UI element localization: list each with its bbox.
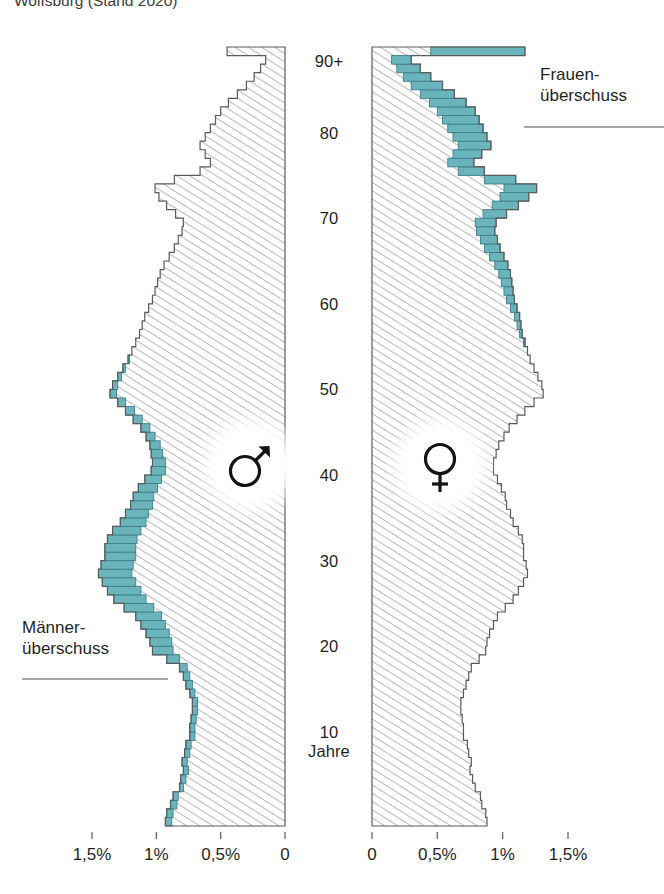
- surplus-bar-segment: [477, 227, 495, 236]
- surplus-bar-segment: [113, 526, 141, 535]
- surplus-bar-segment: [186, 740, 191, 749]
- axis-ticks-group: [92, 832, 568, 839]
- surplus-bar-segment: [183, 672, 189, 681]
- surplus-bar-segment: [183, 766, 188, 775]
- surplus-bar-segment: [507, 295, 515, 304]
- surplus-bar-segment: [133, 415, 142, 424]
- surplus-bar-segment: [182, 758, 187, 767]
- surplus-bar-segment: [192, 706, 197, 715]
- age-axis-label-90plus: 90+: [290, 52, 368, 71]
- frauen-annotation-line2: überschuss: [540, 85, 664, 106]
- age-axis-label-70: 70: [290, 209, 368, 228]
- age-axis-label-40: 40: [290, 466, 368, 485]
- surplus-bar-segment: [392, 56, 412, 65]
- surplus-bar-segment: [448, 158, 474, 167]
- age-axis-label-30: 30: [290, 552, 368, 571]
- surplus-bar-segment: [500, 193, 529, 202]
- male-symbol-halo: [194, 409, 306, 521]
- surplus-bar-segment: [145, 475, 162, 484]
- surplus-bar-segment: [141, 424, 150, 433]
- surplus-bar-segment: [443, 115, 480, 124]
- surplus-bar-segment: [150, 441, 160, 450]
- surplus-bar-segment: [397, 64, 421, 73]
- surplus-bar-segment: [499, 270, 511, 279]
- x-tick-label-left-3: 0: [250, 845, 320, 865]
- surplus-bar-segment: [411, 81, 442, 90]
- surplus-bar-segment: [453, 133, 487, 142]
- surplus-bar-segment: [191, 715, 196, 724]
- age-axis-unit-label: Jahre: [290, 742, 368, 761]
- age-axis-label-50: 50: [290, 380, 368, 399]
- x-tick-label-left-1: 1%: [121, 845, 191, 865]
- surplus-bar-segment: [110, 389, 116, 398]
- surplus-bar-segment: [125, 407, 134, 416]
- age-axis-label-20: 20: [290, 637, 368, 656]
- surplus-bar-segment: [431, 47, 525, 56]
- surplus-bar-segment: [185, 749, 190, 758]
- surplus-bar-segment: [170, 800, 176, 809]
- x-tick-label-right-0: 0: [337, 845, 407, 865]
- x-tick-label-right-2: 1%: [468, 845, 538, 865]
- surplus-bar-segment: [453, 150, 482, 159]
- surplus-bar-segment: [492, 201, 518, 210]
- surplus-bar-segment: [167, 809, 173, 818]
- surplus-bar-segment: [165, 817, 171, 826]
- surplus-bar-segment: [114, 595, 146, 604]
- x-tick-label-left-2: 0,5%: [186, 845, 256, 865]
- maenner-ueberschuss-annotation: Männer- überschuss: [22, 617, 172, 659]
- surplus-bar-segment: [511, 304, 518, 313]
- surplus-bar-segment: [484, 244, 500, 253]
- surplus-bar-segment: [484, 175, 515, 184]
- surplus-bar-segment: [504, 184, 537, 193]
- surplus-bar-segment: [458, 167, 484, 176]
- surplus-bar-segment: [107, 586, 140, 595]
- surplus-bar-segment: [192, 698, 197, 707]
- surplus-bar-segment: [448, 124, 483, 133]
- surplus-bar-segment: [146, 432, 155, 441]
- surplus-bar-segment: [138, 484, 157, 493]
- surplus-bar-segment: [501, 278, 511, 287]
- surplus-bar-segment: [179, 663, 187, 672]
- female-symbol-halo: [384, 409, 496, 521]
- surplus-bar-segment: [437, 107, 475, 116]
- maenner-annotation-line2: überschuss: [22, 638, 172, 659]
- surplus-bar-segment: [190, 689, 195, 698]
- surplus-bar-segment: [118, 398, 126, 407]
- surplus-bar-segment: [186, 680, 192, 689]
- surplus-bar-segment: [480, 235, 497, 244]
- surplus-bar-segment: [429, 98, 466, 107]
- age-axis-label-80: 80: [290, 124, 368, 143]
- frauen-ueberschuss-annotation: Frauen- überschuss: [540, 64, 664, 106]
- surplus-bar-segment: [403, 73, 430, 82]
- surplus-bar-segment: [420, 90, 454, 99]
- surplus-bar-segment: [98, 569, 131, 578]
- surplus-bar-segment: [131, 501, 153, 510]
- frauen-annotation-line1: Frauen-: [540, 64, 664, 85]
- age-axis-label-60: 60: [290, 295, 368, 314]
- surplus-bar-segment: [173, 792, 178, 801]
- surplus-bar-segment: [190, 732, 195, 741]
- surplus-bar-segment: [120, 518, 146, 527]
- x-tick-label-right-1: 0,5%: [402, 845, 472, 865]
- population-pyramid-figure: Wolfsburg (Stand 2020): [0, 0, 664, 894]
- surplus-bar-segment: [152, 458, 165, 467]
- maenner-annotation-line1: Männer-: [22, 617, 172, 638]
- x-tick-label-right-3: 1,5%: [533, 845, 603, 865]
- surplus-bar-segment: [105, 552, 136, 561]
- surplus-bar-segment: [151, 466, 165, 475]
- surplus-bar-segment: [514, 312, 519, 321]
- surplus-bar-segment: [133, 492, 154, 501]
- surplus-bar-segment: [125, 509, 148, 518]
- surplus-bar-segment: [102, 578, 135, 587]
- surplus-bar-segment: [190, 723, 195, 732]
- surplus-bar-segment: [151, 449, 163, 458]
- surplus-bar-segment: [181, 775, 186, 784]
- surplus-bar-segment: [458, 141, 491, 150]
- surplus-bar-segment: [504, 287, 513, 296]
- surplus-bar-segment: [483, 210, 507, 219]
- surplus-bar-segment: [495, 261, 508, 270]
- surplus-bar-segment: [475, 218, 496, 227]
- surplus-bar-segment: [490, 252, 504, 261]
- surplus-bar-segment: [101, 561, 133, 570]
- surplus-bar-segment: [107, 535, 137, 544]
